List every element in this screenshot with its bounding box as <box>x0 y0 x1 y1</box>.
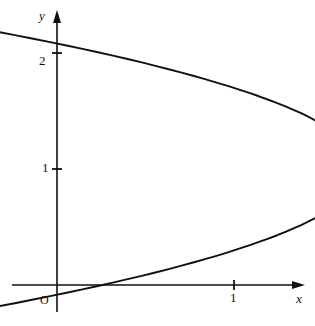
x-axis-arrow-icon <box>292 281 305 289</box>
y-tick-label-2: 2 <box>39 54 46 67</box>
parabola-figure: y x 2 1 1 O <box>0 0 315 326</box>
x-axis-label: x <box>296 292 302 305</box>
x-tick-label-1: 1 <box>230 291 237 304</box>
y-axis-label: y <box>39 9 45 22</box>
y-tick-label-1: 1 <box>42 161 49 174</box>
y-axis-arrow-icon <box>53 10 61 23</box>
origin-label: O <box>40 294 49 306</box>
